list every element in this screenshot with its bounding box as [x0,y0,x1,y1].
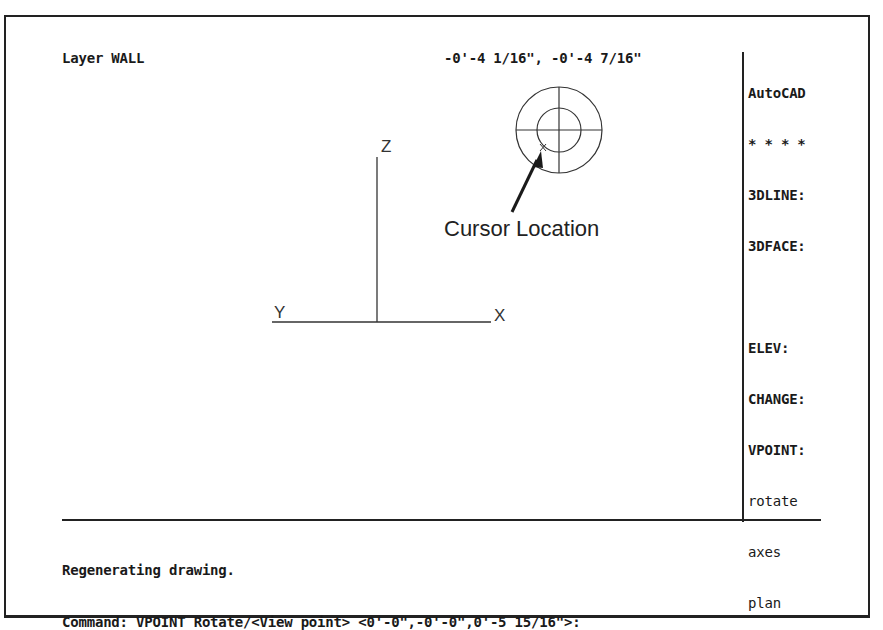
x-axis-label: X [494,306,505,326]
menu-item-vpoint[interactable]: VPOINT: [748,441,858,460]
menu-item-axes[interactable]: axes [748,543,858,562]
y-axis-label: Y [274,303,285,323]
menu-item-rotate[interactable]: rotate [748,492,858,511]
z-axis-label: Z [381,137,391,157]
menu-item-3dline[interactable]: 3DLINE: [748,186,858,205]
menu-item-3dface[interactable]: 3DFACE: [748,237,858,256]
menu-item-change[interactable]: CHANGE: [748,390,858,409]
command-prompt-line[interactable]: Command: VPOINT Rotate/<View point> <0'-… [62,612,580,630]
cursor-location-callout: Cursor Location [444,216,599,242]
side-menu-divider [742,52,744,522]
menu-spacer [748,288,858,307]
menu-item-plan[interactable]: plan [748,594,858,613]
screen-menu: AutoCAD * * * * 3DLINE: 3DFACE: ELEV: CH… [748,52,858,630]
drawing-area[interactable] [6,52,742,518]
command-history-line: Regenerating drawing. [62,560,580,580]
command-area-divider [62,519,821,521]
menu-stars[interactable]: * * * * [748,135,858,154]
menu-title-autocad[interactable]: AutoCAD [748,84,858,103]
menu-item-elev[interactable]: ELEV: [748,339,858,358]
command-prompt-area[interactable]: Regenerating drawing. Command: VPOINT Ro… [62,528,580,630]
